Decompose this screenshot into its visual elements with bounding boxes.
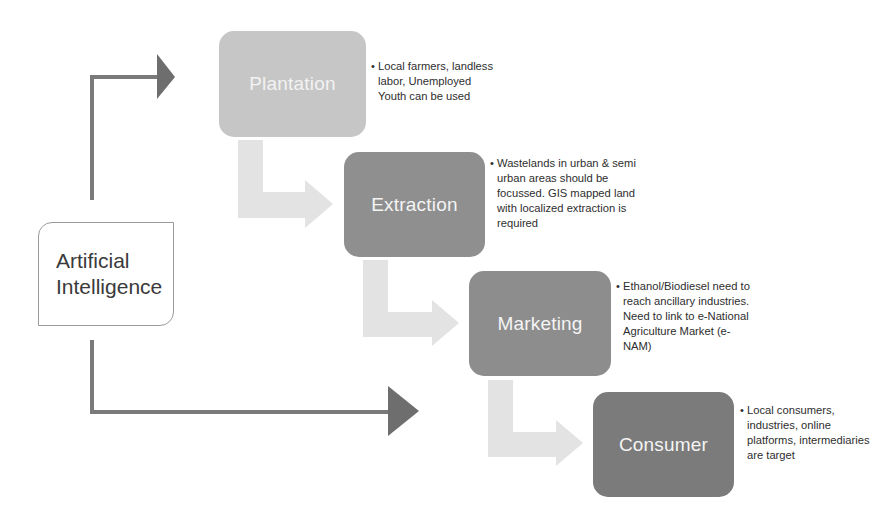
ai-to-plantation-arrowhead (157, 54, 175, 99)
bullet-icon: • (490, 156, 497, 171)
bent-arrow-plantation-to-extraction (238, 140, 333, 228)
note-consumer: •Local consumers, industries, online pla… (740, 403, 877, 463)
ai-label-line2: Intelligence (56, 274, 162, 300)
note-marketing: •Ethanol/Biodiesel need to reach ancilla… (616, 279, 758, 354)
stage-marketing: Marketing (469, 271, 611, 376)
note-text: Local consumers, industries, online plat… (747, 404, 869, 461)
ai-to-plantation-line (92, 77, 158, 200)
stage-consumer: Consumer (593, 392, 734, 497)
stage-label: Plantation (249, 73, 336, 95)
stage-plantation: Plantation (219, 31, 366, 137)
ai-label: Artificial Intelligence (56, 248, 162, 300)
note-text: Wastelands in urban & semi urban areas s… (497, 157, 636, 229)
bent-arrow-extraction-to-marketing (363, 260, 459, 346)
bullet-icon: • (371, 59, 378, 74)
stage-label: Consumer (619, 434, 708, 456)
stage-extraction: Extraction (344, 152, 485, 257)
bullet-icon: • (616, 279, 623, 294)
stage-label: Marketing (497, 313, 582, 335)
bullet-icon: • (740, 403, 747, 418)
ai-source-node: Artificial Intelligence (38, 222, 174, 326)
note-text: Ethanol/Biodiesel need to reach ancillar… (623, 280, 750, 352)
ai-label-line1: Artificial (56, 248, 162, 274)
ai-to-consumer-arrowhead (388, 386, 419, 436)
bent-arrow-marketing-to-consumer (488, 380, 583, 466)
note-extraction: •Wastelands in urban & semi urban areas … (490, 156, 642, 231)
stage-label: Extraction (371, 194, 457, 216)
note-text: Local farmers, landless labor, Unemploye… (378, 60, 493, 102)
ai-to-consumer-line (92, 340, 390, 412)
note-plantation: •Local farmers, landless labor, Unemploy… (371, 59, 498, 104)
